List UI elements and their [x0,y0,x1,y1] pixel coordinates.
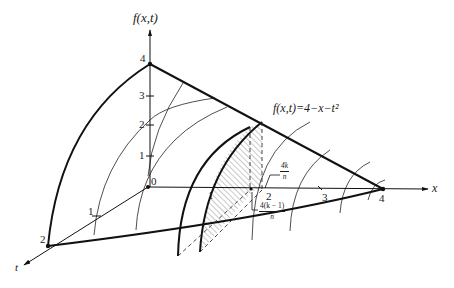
vertical-tick-2: 2 [139,119,145,130]
vertical-tick-3: 3 [139,90,145,101]
t-tick-2: 2 [40,234,46,245]
x-axis-label: x [432,182,437,194]
t-tick-1: 1 [88,206,94,217]
x-tick-3: 3 [322,192,328,203]
top-boundary-line [150,64,383,189]
x-tick-1: 1 [208,190,214,201]
upper-bound-numerator: 4k [280,162,289,170]
lower-bound-numerator: 4(k − 1) [259,202,285,210]
lower-bound-fraction: 4(k − 1) n [259,202,285,220]
origin-label: 0 [151,176,157,187]
axes [24,30,428,265]
lower-bound-denominator: n [270,213,274,221]
diagram-canvas [0,0,454,288]
x-tick-4: 4 [379,193,385,204]
t-axis [24,187,148,265]
vertical-tick-1: 1 [139,150,145,161]
vertical-tick-4: 4 [140,53,146,64]
upper-bound-fraction: 4k n [280,162,289,180]
left-boundary-curve [48,64,150,246]
vertical-axis-label: f(x,t) [133,11,158,24]
function-label: f(x,t)=4−x−t² [273,102,339,114]
upper-bound-denominator: n [283,173,287,181]
t-axis-label: t [15,262,18,273]
